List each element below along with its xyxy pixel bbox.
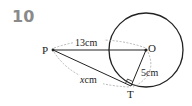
- label-po-length: 13cm: [75, 37, 97, 48]
- point-p: [52, 49, 55, 52]
- label-t: T: [127, 88, 134, 100]
- label-o: O: [148, 42, 156, 54]
- label-ot-length: 5cm: [141, 67, 158, 78]
- label-p: P: [42, 44, 48, 56]
- geometry-diagram: P O T 13cm xcm 5cm: [0, 0, 192, 106]
- label-pt-length: xcm: [79, 74, 97, 85]
